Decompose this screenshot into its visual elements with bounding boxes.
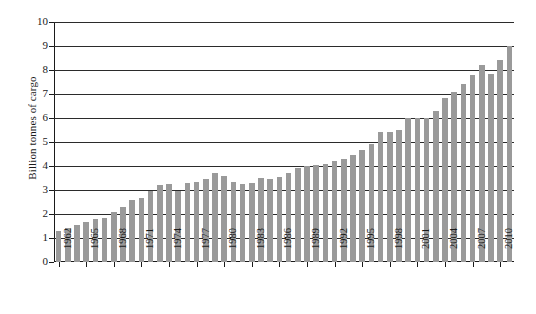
bar [129,200,135,262]
x-tick-label: 1989 [311,228,322,274]
x-tick-mark [252,262,253,267]
x-tick-label: 1971 [145,228,156,274]
bar [194,182,200,262]
x-tick-mark [390,262,391,267]
x-tick-mark [141,262,142,267]
x-tick-mark [197,262,198,267]
y-tick-label: 10 [28,16,48,27]
bar [111,212,117,262]
x-tick-label: 2010 [504,228,515,274]
bar [350,155,356,262]
bar [56,231,62,262]
x-tick-label: 1980 [228,228,239,274]
x-tick-label: 1983 [256,228,267,274]
x-tick-mark [335,262,336,267]
x-tick-label: 1977 [201,228,212,274]
x-tick-label: 1992 [339,228,350,274]
x-tick-mark [417,262,418,267]
bar [488,74,494,262]
bar [212,173,218,262]
plot-area: 012345678910 196219651968197119741977198… [54,22,514,262]
y-tick-label: 2 [28,208,48,219]
bar [267,179,273,262]
y-tick-label: 7 [28,88,48,99]
y-tick-label: 0 [28,256,48,267]
bar [185,183,191,262]
bar [405,118,411,262]
bar [221,176,227,262]
x-tick-label: 2001 [421,228,432,274]
bar-chart: Billion tonnes of cargo 012345678910 196… [0,0,536,314]
y-tick-label: 6 [28,112,48,123]
x-tick-label: 1986 [283,228,294,274]
x-tick-label: 1965 [90,228,101,274]
bar [249,183,255,262]
bar [74,225,80,262]
x-tick-mark [169,262,170,267]
bar [240,184,246,262]
bar [304,166,310,262]
x-tick-label: 1962 [63,228,74,274]
y-tick-label: 1 [28,232,48,243]
x-tick-mark [500,262,501,267]
bar [442,98,448,262]
x-tick-label: 1974 [173,228,184,274]
bar [157,185,163,262]
y-tick-label: 4 [28,160,48,171]
x-tick-label: 2007 [477,228,488,274]
x-tick-mark [473,262,474,267]
bar [461,84,467,262]
x-tick-label: 2004 [449,228,460,274]
y-tick-label: 9 [28,40,48,51]
x-tick-label: 1968 [118,228,129,274]
bar [387,132,393,262]
x-tick-mark [224,262,225,267]
y-tick-label: 8 [28,64,48,75]
x-tick-label: 1998 [394,228,405,274]
x-tick-mark [307,262,308,267]
x-tick-mark [279,262,280,267]
x-tick-mark [114,262,115,267]
x-tick-mark [59,262,60,267]
bar [295,168,301,262]
bar [378,132,384,262]
bar [323,164,329,262]
y-tick-mark [49,262,54,263]
bar [470,75,476,262]
bar [102,218,108,262]
x-tick-label: 1995 [366,228,377,274]
x-tick-mark [86,262,87,267]
y-tick-label: 3 [28,184,48,195]
x-tick-mark [362,262,363,267]
bar [332,161,338,262]
y-tick-label: 5 [28,136,48,147]
bar [277,177,283,262]
bar [166,184,172,262]
x-tick-mark [445,262,446,267]
bar-series [54,22,514,262]
bar [433,111,439,262]
